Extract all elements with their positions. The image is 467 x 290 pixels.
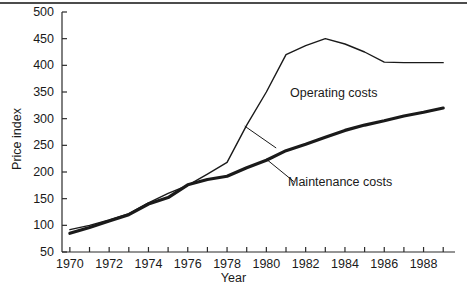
x-tick-label: 1986 [370, 257, 398, 271]
series-line-maintenance-costs [70, 108, 443, 233]
line-chart-canvas [0, 0, 467, 290]
y-tick-label: 50 [6, 245, 54, 259]
y-axis-ticks [62, 12, 67, 252]
y-tick-label: 150 [6, 192, 54, 206]
x-axis-ticks [70, 247, 443, 252]
y-tick-label: 500 [6, 5, 54, 19]
x-tick-label: 1976 [174, 257, 202, 271]
x-tick-label: 1982 [292, 257, 320, 271]
x-tick-label: 1980 [252, 257, 280, 271]
x-tick-label: 1978 [213, 257, 241, 271]
chart-figure: 50100150200250300350400450500 1970197219… [0, 0, 467, 290]
annotation-leader-line [245, 126, 276, 148]
y-tick-label: 100 [6, 218, 54, 232]
annotation-leader-lines [245, 126, 294, 181]
data-series-group [70, 39, 443, 234]
x-tick-label: 1970 [56, 257, 84, 271]
y-tick-label: 450 [6, 32, 54, 46]
series-annotation-operating-costs: Operating costs [290, 86, 378, 100]
series-annotation-maintenance-costs: Maintenance costs [288, 175, 392, 189]
x-tick-label: 1974 [135, 257, 163, 271]
y-tick-label: 400 [6, 58, 54, 72]
x-tick-label: 1972 [95, 257, 123, 271]
y-axis-title: Price index [10, 94, 24, 184]
x-tick-label: 1988 [410, 257, 438, 271]
x-axis-title: Year [0, 271, 467, 285]
x-tick-label: 1984 [331, 257, 359, 271]
